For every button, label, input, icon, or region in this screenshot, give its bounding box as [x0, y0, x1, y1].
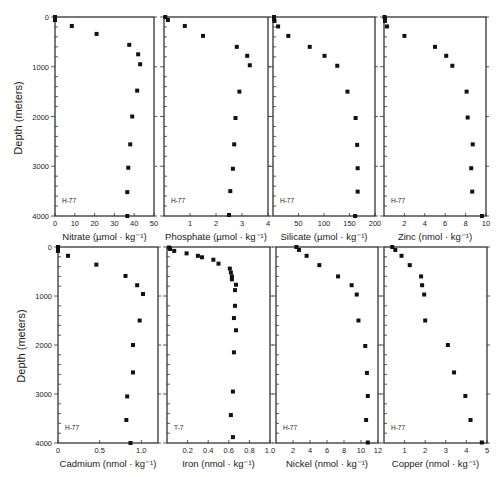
data-point	[183, 24, 187, 28]
data-point	[345, 90, 349, 94]
depth-profile-figure: 0100020003000400001020304050Nitrate (µmo…	[0, 0, 500, 477]
data-point	[297, 248, 301, 252]
y-tick-label: 3000	[32, 162, 49, 171]
x-tick-label: 6	[325, 446, 329, 455]
x-tick-label: 150	[343, 219, 356, 228]
data-point	[235, 45, 239, 49]
data-point	[228, 267, 232, 271]
x-tick-label: 2	[214, 219, 218, 228]
data-point	[141, 292, 145, 296]
data-point	[231, 435, 235, 439]
x-tick-label: 0.8	[244, 446, 254, 455]
data-point	[228, 189, 232, 193]
x-tick-label: 0.6	[224, 446, 234, 455]
data-point	[124, 418, 128, 422]
plot-frame	[167, 247, 270, 443]
plot-frame	[55, 17, 154, 216]
data-point	[131, 370, 135, 374]
data-point	[433, 45, 437, 49]
data-point	[53, 18, 57, 22]
y-axis-label-bottom: Depth (meters)	[15, 309, 27, 382]
data-point	[317, 263, 321, 267]
plot-frame	[273, 17, 375, 216]
y-tick-label: 2000	[32, 113, 49, 122]
plot-frame	[276, 247, 378, 443]
x-tick-label: 10	[482, 219, 490, 228]
x-tick-label: 20	[90, 219, 98, 228]
x-tick-label: 1	[188, 219, 192, 228]
data-point	[446, 343, 450, 347]
data-point	[129, 441, 133, 445]
panel-cadmium: 0100020003000400000.51.0Cadmium (nmol · …	[35, 243, 161, 469]
data-point	[400, 254, 404, 258]
data-point	[402, 34, 406, 38]
data-point	[286, 34, 290, 38]
x-tick-label: 4	[266, 219, 270, 228]
x-axis-title: Nickel (nmol · kg⁻¹)	[286, 458, 368, 469]
y-tick-label: 0	[48, 243, 52, 252]
data-point	[355, 143, 359, 147]
x-tick-label: 1	[403, 446, 407, 455]
x-tick-label: 6	[443, 219, 447, 228]
data-point	[232, 142, 236, 146]
data-point	[364, 418, 368, 422]
data-point	[138, 62, 142, 66]
data-point	[230, 277, 234, 281]
data-point	[229, 270, 233, 274]
panel-copper: 12345Copper (nmol · kg⁻¹)H-77	[380, 245, 490, 469]
data-point	[469, 166, 473, 170]
data-point	[70, 24, 74, 28]
data-point	[383, 19, 387, 23]
data-point	[248, 63, 252, 67]
data-point	[423, 319, 427, 323]
data-point	[227, 213, 231, 217]
y-axis-title-top: Depth (meters)	[12, 81, 24, 154]
x-tick-label: 50	[150, 219, 158, 228]
station-label: T-7	[174, 424, 184, 431]
data-point	[354, 116, 358, 120]
data-point	[471, 142, 475, 146]
data-point	[172, 249, 176, 253]
data-point	[66, 254, 70, 258]
x-tick-label: 200	[369, 219, 382, 228]
y-tick-label: 2000	[35, 341, 52, 350]
x-tick-label: 1.0	[265, 446, 275, 455]
data-point	[470, 190, 474, 194]
x-tick-label: 4	[308, 446, 312, 455]
x-axis-title: Nitrate (µmol · kg⁻¹)	[62, 231, 146, 242]
data-point	[245, 54, 249, 58]
data-point	[234, 116, 238, 120]
data-point	[335, 64, 339, 68]
x-tick-label: 0.2	[182, 446, 192, 455]
plot-frame	[384, 247, 487, 443]
data-point	[420, 283, 424, 287]
x-tick-label: 2	[423, 446, 427, 455]
x-axis-title: Silicate (µmol · kg⁻¹)	[280, 231, 367, 242]
x-tick-label: 4	[423, 219, 427, 228]
data-point	[422, 293, 426, 297]
data-point	[211, 258, 215, 262]
data-point	[231, 167, 235, 171]
station-label: H-77	[65, 424, 79, 431]
x-tick-label: 0	[56, 446, 60, 455]
data-point	[480, 441, 484, 445]
x-tick-label: 2	[402, 219, 406, 228]
data-point	[450, 64, 454, 68]
data-point	[200, 255, 204, 259]
y-tick-label: 4000	[35, 439, 52, 448]
y-tick-label: 1000	[32, 63, 49, 72]
data-point	[452, 370, 456, 374]
data-point	[232, 350, 236, 354]
data-point	[385, 24, 389, 28]
station-label: H-77	[391, 424, 405, 431]
data-point	[166, 18, 170, 22]
x-tick-label: 8	[464, 219, 468, 228]
x-tick-label: 5	[485, 446, 489, 455]
data-point	[234, 328, 238, 332]
data-point	[466, 115, 470, 119]
x-axis-title: Copper (nmol · kg⁻¹)	[392, 458, 479, 469]
data-point	[135, 89, 139, 93]
data-point	[138, 319, 142, 323]
x-tick-label: 4	[464, 446, 468, 455]
x-tick-label: 8	[342, 446, 346, 455]
